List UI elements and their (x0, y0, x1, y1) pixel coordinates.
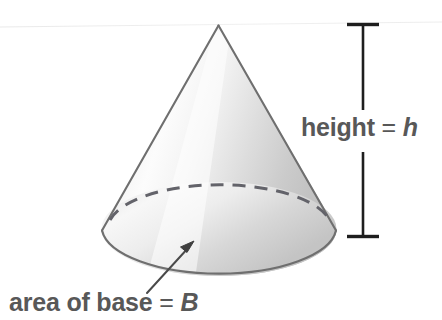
base-area-label-variable: B (180, 288, 198, 316)
base-area-label-prefix: area of base (9, 288, 153, 316)
height-label-prefix: height (301, 113, 375, 141)
height-label-variable: h (403, 113, 418, 141)
cone-base-disc (102, 182, 337, 276)
height-label: height = h (301, 115, 418, 140)
height-label-equals: = (382, 113, 396, 141)
cone-diagram-canvas (0, 0, 442, 320)
cone-body (102, 25, 337, 276)
base-area-label-equals: = (159, 288, 173, 316)
cone-diagram-figure: height = h area of base = B (0, 0, 442, 320)
base-area-label: area of base = B (9, 290, 198, 315)
